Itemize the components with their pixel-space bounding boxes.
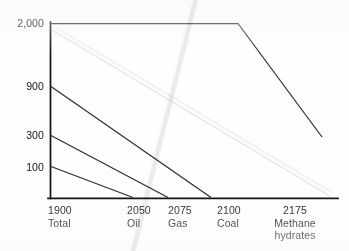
chart-container: 2,000 900 300 100 1900 Total 2050 Oil 20… bbox=[0, 0, 349, 251]
y-tick-label-100: 100 bbox=[2, 162, 44, 173]
series-line-coal bbox=[51, 87, 211, 198]
x-tick-label-1900-total: 1900 Total bbox=[48, 204, 72, 229]
x-tick-year-2050: 2050 bbox=[127, 204, 151, 217]
x-tick-year-2175: 2175 bbox=[274, 204, 316, 217]
x-tick-year-1900: 1900 bbox=[48, 204, 72, 217]
y-tick-label-300: 300 bbox=[2, 130, 44, 141]
y-tick-label-2000: 2,000 bbox=[2, 18, 44, 29]
x-tick-fuel-methane: Methane bbox=[274, 217, 316, 230]
x-tick-fuel-coal: Coal bbox=[217, 217, 241, 230]
x-tick-year-2075: 2075 bbox=[168, 204, 192, 217]
scan-artifact-diagonal-2 bbox=[55, 27, 333, 193]
y-tick-label-900: 900 bbox=[2, 81, 44, 92]
x-tick-fuel-oil: Oil bbox=[127, 217, 151, 230]
x-tick-year-2100: 2100 bbox=[217, 204, 241, 217]
scan-artifact-diagonal bbox=[52, 30, 330, 196]
x-tick-fuel-hydrates: hydrates bbox=[274, 229, 316, 242]
x-tick-label-2050-oil: 2050 Oil bbox=[127, 204, 151, 229]
x-tick-label-2100-coal: 2100 Coal bbox=[217, 204, 241, 229]
x-tick-label-2075-gas: 2075 Gas bbox=[168, 204, 192, 229]
x-tick-fuel-gas: Gas bbox=[168, 217, 192, 230]
series-line-methane-hydrates bbox=[51, 24, 322, 138]
x-tick-label-2175-methane-hydrates: 2175 Methane hydrates bbox=[274, 204, 316, 242]
x-tick-fuel-total: Total bbox=[48, 217, 72, 230]
series-line-oil bbox=[51, 167, 133, 198]
